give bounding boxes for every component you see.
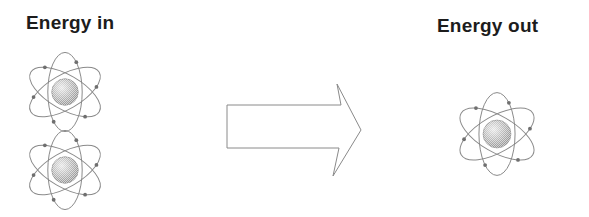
electron-dot	[507, 101, 511, 105]
electron-dot	[74, 138, 78, 142]
electron-dot	[74, 60, 78, 64]
electron-dot	[43, 65, 47, 69]
nucleus-dither	[483, 120, 511, 148]
electron-dot	[528, 127, 532, 131]
electron-dot	[32, 173, 36, 177]
atom-icon-input-2	[22, 130, 108, 210]
electron-dot	[95, 163, 99, 167]
atom-svg	[452, 92, 542, 176]
electron-dot	[95, 85, 99, 89]
nucleus-dither	[52, 79, 78, 105]
energy-in-label: Energy in	[26, 12, 114, 34]
atom-icon-output-1	[452, 92, 542, 176]
electron-dot	[462, 137, 466, 141]
energy-out-label: Energy out	[437, 15, 538, 37]
electron-dot	[32, 95, 36, 99]
electron-dot	[483, 163, 487, 167]
electron-dot	[83, 193, 87, 197]
electron-dot	[474, 106, 478, 110]
diagram-canvas: Energy in Energy out	[0, 0, 589, 217]
atom-svg	[22, 52, 108, 132]
arrow-right-icon	[205, 82, 375, 182]
electron-dot	[83, 115, 87, 119]
electron-dot	[43, 143, 47, 147]
atom-svg	[22, 130, 108, 210]
electron-dot	[52, 120, 56, 124]
electron-dot	[516, 158, 520, 162]
electron-dot	[52, 198, 56, 202]
nucleus-dither	[52, 157, 78, 183]
atom-icon-input-1	[22, 52, 108, 132]
